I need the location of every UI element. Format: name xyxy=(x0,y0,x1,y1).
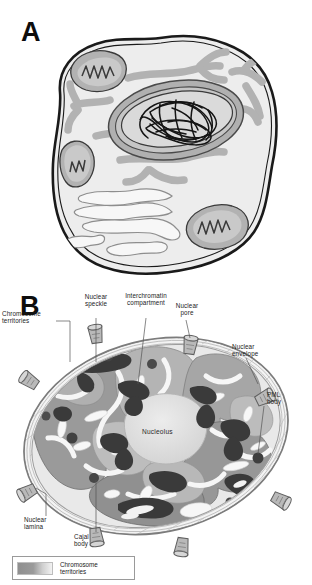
pml-body xyxy=(67,433,78,444)
label-pml-body: PML body xyxy=(267,391,303,406)
pml-body xyxy=(253,453,264,464)
nuclear-pore xyxy=(174,537,190,557)
panel-a-drawing xyxy=(0,0,312,290)
mitochondrion xyxy=(60,141,94,187)
panel-b: B xyxy=(0,288,312,585)
label-nuclear-pore: Nuclear pore xyxy=(164,302,210,317)
legend-swatch-chromosome-territories xyxy=(17,562,53,575)
label-nuclear-lamina: Nuclear lamina xyxy=(24,516,74,531)
figure-root: A xyxy=(0,0,312,585)
label-chromosome-territories-left: Chromosome territories xyxy=(2,310,56,325)
leader-chromosome-territories xyxy=(56,321,70,362)
legend: Chromosome territories xyxy=(12,556,135,580)
panel-a: A xyxy=(0,0,312,290)
pml-body xyxy=(147,359,157,369)
panel-b-drawing xyxy=(0,288,312,585)
label-cajal-body: Cajal body xyxy=(74,533,116,548)
label-nuclear-envelope: Nuclear envelope xyxy=(232,343,286,358)
nuclear-pore xyxy=(270,490,293,511)
mitochondrion xyxy=(71,51,127,92)
nuclear-pore xyxy=(17,369,40,391)
label-nucleolus: Nucleolus xyxy=(142,428,173,435)
legend-label: Chromosome territories xyxy=(60,561,98,576)
cajal-body xyxy=(89,473,99,483)
